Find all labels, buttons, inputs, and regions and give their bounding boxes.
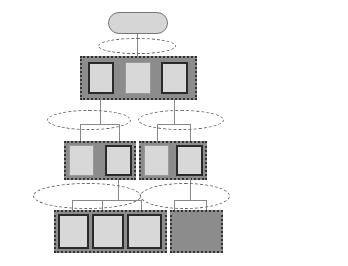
node-m22 (176, 145, 203, 176)
dmm-ellipse-f3-m (138, 110, 224, 130)
node-f3 (161, 62, 188, 94)
node-m21 (144, 145, 169, 176)
node-m12 (105, 145, 132, 176)
dmm-ellipse-m12-a (33, 183, 141, 209)
node-a121 (58, 214, 89, 249)
group-a2 (170, 210, 223, 253)
node-f2 (125, 62, 151, 94)
node-f1 (88, 62, 114, 94)
root-node-qw (108, 12, 168, 34)
node-a122 (92, 214, 124, 249)
dmm-ellipse-f1-m (47, 110, 131, 130)
dmm-ellipse-w-f (98, 38, 176, 54)
node-m11 (69, 145, 94, 176)
dmm-ellipse-m22-a (140, 183, 230, 209)
node-a123 (127, 214, 162, 249)
